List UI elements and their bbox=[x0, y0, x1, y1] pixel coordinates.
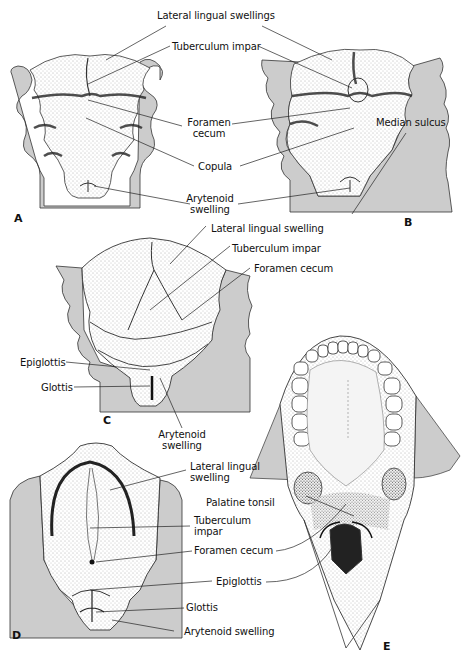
panel-c-drawing bbox=[56, 238, 252, 412]
label-lateral-lingual-swelling-d: Lateral lingual swelling bbox=[190, 461, 260, 483]
label-tuberculum-impar-c: Tuberculum impar bbox=[232, 243, 321, 254]
panel-b-drawing bbox=[262, 49, 452, 212]
panel-a-drawing bbox=[11, 55, 163, 209]
panel-e-drawing bbox=[250, 336, 460, 650]
label-lateral-lingual-swelling-c: Lateral lingual swelling bbox=[211, 223, 324, 234]
label-tuberculum-impar-d: Tuberculum impar bbox=[194, 515, 251, 537]
panel-label-b: B bbox=[404, 216, 412, 229]
panel-label-d: D bbox=[12, 629, 21, 642]
label-glottis-c: Glottis bbox=[41, 382, 73, 393]
label-palatine-tonsil: Palatine tonsil bbox=[206, 497, 275, 508]
label-foramen-cecum-c: Foramen cecum bbox=[254, 263, 333, 274]
label-tuberculum-impar-ab: Tuberculum impar bbox=[172, 41, 261, 52]
label-copula: Copula bbox=[198, 161, 232, 172]
label-arytenoid-swelling-c: Arytenoid swelling bbox=[156, 429, 208, 451]
panel-label-a: A bbox=[14, 212, 23, 225]
label-foramen-cecum-ab: Foramen cecum bbox=[186, 117, 232, 139]
panel-d-drawing bbox=[10, 443, 182, 638]
label-arytenoid-swelling-ab: Arytenoid swelling bbox=[184, 193, 236, 215]
label-foramen-cecum-d: Foramen cecum bbox=[194, 545, 273, 556]
label-epiglottis-c: Epiglottis bbox=[20, 357, 66, 368]
label-epiglottis-d: Epiglottis bbox=[216, 576, 262, 587]
embryonic-tongue-diagram bbox=[0, 0, 466, 655]
label-glottis-d: Glottis bbox=[186, 602, 218, 613]
panel-label-c: C bbox=[103, 414, 111, 427]
label-lateral-lingual-swellings: Lateral lingual swellings bbox=[157, 10, 275, 21]
label-median-sulcus: Median sulcus bbox=[376, 117, 446, 128]
panel-label-e: E bbox=[383, 640, 391, 653]
label-arytenoid-swelling-d: Arytenoid swelling bbox=[184, 626, 274, 637]
